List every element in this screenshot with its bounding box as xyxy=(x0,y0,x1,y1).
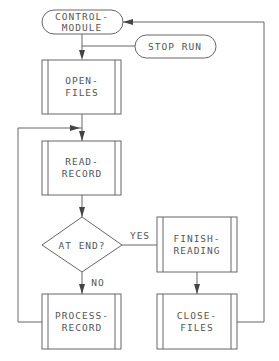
node-label: OPEN- xyxy=(65,75,99,86)
node-read-record: READ- RECORD xyxy=(42,141,121,195)
node-label: PROCESS- xyxy=(55,310,109,321)
node-label: RECORD xyxy=(62,322,102,333)
arrow-down-icon xyxy=(79,131,85,141)
edge-label-yes: YES xyxy=(130,230,150,241)
node-control-module: CONTROL- MODULE xyxy=(42,10,123,34)
node-stop-run: STOP RUN xyxy=(135,35,216,58)
node-close-files: CLOSE- FILES xyxy=(157,294,237,349)
node-label: CONTROL- xyxy=(55,11,109,22)
flowchart: CONTROL- MODULE STOP RUN OPEN- FILES REA… xyxy=(0,0,279,361)
arrow-right-icon xyxy=(70,125,80,131)
node-process-record: PROCESS- RECORD xyxy=(42,294,121,349)
arrow-left-icon xyxy=(123,19,133,25)
node-label: MODULE xyxy=(62,22,102,33)
arrow-down-icon xyxy=(79,50,85,60)
node-label: RECORD xyxy=(62,168,102,179)
arrow-down-icon xyxy=(79,284,85,294)
edge-close-to-control xyxy=(123,22,264,322)
node-label: AT END? xyxy=(58,240,105,251)
edge-label-no: NO xyxy=(91,277,104,288)
arrow-down-icon xyxy=(194,284,200,294)
node-label: FILES xyxy=(65,87,99,98)
node-at-end-decision: AT END? xyxy=(42,217,122,272)
node-finish-reading: FINISH- READING xyxy=(157,217,237,272)
node-label: STOP RUN xyxy=(148,41,202,52)
node-label: READING xyxy=(173,245,220,256)
node-open-files: OPEN- FILES xyxy=(42,60,121,114)
node-label: FINISH- xyxy=(173,233,220,244)
node-label: CLOSE- xyxy=(177,310,217,321)
node-label: READ- xyxy=(65,156,99,167)
node-label: FILES xyxy=(180,322,214,333)
arrow-down-icon xyxy=(79,207,85,217)
